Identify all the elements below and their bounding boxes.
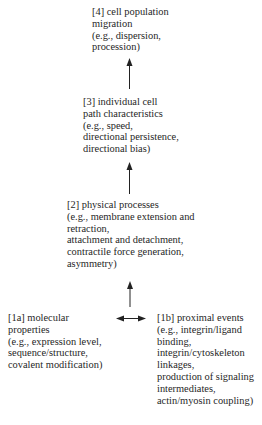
node-text-line: [4] cell population <box>92 6 169 18</box>
node-text-line: [2] physical processes <box>67 199 195 211</box>
node-text-line: production of signaling <box>157 371 254 383</box>
node-text-line: sequence/structure, <box>8 347 102 359</box>
arrow-level1-to-level2 <box>127 281 133 307</box>
node-text-line: migration <box>92 18 169 30</box>
node-text-line: (e.g., integrin/ligand <box>157 324 254 336</box>
node-text-line: asymmetry) <box>67 258 195 270</box>
node-text-line: attachment and detachment, <box>67 234 195 246</box>
node-text-line: contractile force generation, <box>67 246 195 258</box>
node-text-line: procession) <box>92 41 169 53</box>
node-text-line: [3] individual cell <box>83 96 179 108</box>
node-text-line: actin/myosin coupling) <box>157 395 254 407</box>
node-level2-physical-processes: [2] physical processes (e.g., membrane e… <box>67 199 195 270</box>
node-text-line: [1b] proximal events <box>157 312 254 324</box>
node-level1a-molecular-properties: [1a] molecular properties (e.g., express… <box>8 312 102 371</box>
node-text-line: (e.g., expression level, <box>8 336 102 348</box>
node-text-line: (e.g., dispersion, <box>92 30 169 42</box>
node-text-line: retraction, <box>67 223 195 235</box>
arrow-level2-to-level3 <box>127 162 133 194</box>
node-text-line: covalent modification) <box>8 359 102 371</box>
node-text-line: properties <box>8 324 102 336</box>
node-level1b-proximal-events: [1b] proximal events (e.g., integrin/lig… <box>157 312 254 406</box>
node-level4-cell-population-migration: [4] cell population migration (e.g., dis… <box>92 6 169 53</box>
node-level3-individual-cell-path: [3] individual cell path characteristics… <box>83 96 179 155</box>
arrow-bidirectional-1a-1b <box>116 316 146 322</box>
node-text-line: intermediates, <box>157 383 254 395</box>
node-text-line: (e.g., membrane extension and <box>67 211 195 223</box>
node-text-line: integrin/cytoskeleton <box>157 347 254 359</box>
node-text-line: path characteristics <box>83 108 179 120</box>
arrow-level3-to-level4 <box>127 58 133 89</box>
node-text-line: binding, <box>157 336 254 348</box>
node-text-line: directional persistence, <box>83 131 179 143</box>
node-text-line: directional bias) <box>83 143 179 155</box>
node-text-line: [1a] molecular <box>8 312 102 324</box>
node-text-line: linkages, <box>157 359 254 371</box>
node-text-line: (e.g., speed, <box>83 120 179 132</box>
